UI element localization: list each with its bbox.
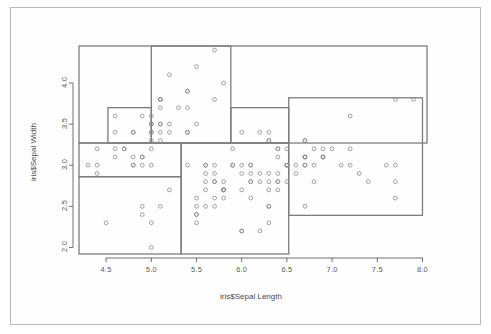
- x-tick-label: 6.0: [236, 265, 247, 274]
- data-point: [158, 204, 162, 208]
- data-point: [158, 106, 162, 110]
- data-point: [140, 213, 144, 217]
- data-point: [312, 180, 316, 184]
- y-tick-label: 3.5: [60, 117, 69, 131]
- data-point: [195, 65, 199, 69]
- data-point: [276, 147, 280, 151]
- data-point: [393, 196, 397, 200]
- data-point: [149, 246, 153, 250]
- region-upper-left-small: [108, 108, 151, 143]
- data-point: [140, 114, 144, 118]
- data-point: [158, 130, 162, 134]
- data-point: [195, 213, 199, 217]
- data-point: [131, 130, 135, 134]
- data-point: [186, 89, 190, 93]
- x-tick-label: 7.0: [327, 265, 338, 274]
- data-point: [357, 172, 361, 176]
- data-point: [339, 163, 343, 167]
- data-point: [140, 155, 144, 159]
- x-tick-label: 4.5: [101, 265, 112, 274]
- data-point: [113, 155, 117, 159]
- data-point: [213, 196, 217, 200]
- x-tick-label: 5.5: [191, 265, 202, 274]
- data-point: [321, 147, 325, 151]
- data-point: [384, 163, 388, 167]
- data-point: [95, 172, 99, 176]
- data-point: [249, 163, 253, 167]
- data-point: [213, 98, 217, 102]
- data-point: [222, 188, 226, 192]
- data-point: [240, 229, 244, 233]
- data-point: [113, 114, 117, 118]
- data-point: [222, 180, 226, 184]
- data-point: [258, 229, 262, 233]
- data-point: [348, 163, 352, 167]
- data-point: [213, 180, 217, 184]
- data-point: [267, 139, 271, 143]
- data-point: [303, 155, 307, 159]
- data-point: [267, 172, 271, 176]
- data-point: [177, 106, 181, 110]
- data-point: [303, 163, 307, 167]
- data-point: [312, 163, 316, 167]
- data-point: [213, 204, 217, 208]
- x-axis-title: iris$Sepal Length: [220, 292, 282, 301]
- screenshot-root: 4.55.05.56.06.57.07.58.0 2.02.53.03.54.0…: [0, 0, 491, 334]
- data-point: [167, 122, 171, 126]
- data-point: [113, 130, 117, 134]
- y-tick-label: 2.0: [60, 240, 69, 254]
- region-mid-left: [79, 143, 181, 177]
- data-point: [131, 163, 135, 167]
- data-point: [258, 172, 262, 176]
- x-tick-label: 7.5: [372, 265, 383, 274]
- data-point: [149, 221, 153, 225]
- x-tick-label: 6.5: [281, 265, 292, 274]
- data-point: [195, 204, 199, 208]
- data-point: [231, 163, 235, 167]
- plot-svg: [0, 0, 491, 334]
- data-point: [86, 163, 90, 167]
- data-point: [240, 188, 244, 192]
- data-point: [158, 122, 162, 126]
- data-point: [330, 147, 334, 151]
- data-point: [276, 155, 280, 159]
- data-point: [186, 163, 190, 167]
- region-right-large: [289, 98, 423, 216]
- data-point: [167, 130, 171, 134]
- data-point: [131, 155, 135, 159]
- data-point: [222, 81, 226, 85]
- data-point: [240, 172, 244, 176]
- data-point: [267, 221, 271, 225]
- plot-area: 4.55.05.56.06.57.07.58.0 2.02.53.03.54.0…: [0, 0, 491, 334]
- data-point: [95, 163, 99, 167]
- y-tick-label: 3.0: [60, 158, 69, 172]
- data-point: [393, 180, 397, 184]
- data-point: [204, 188, 208, 192]
- data-point: [276, 180, 280, 184]
- data-point: [366, 180, 370, 184]
- x-tick-label: 8.0: [417, 265, 428, 274]
- region-outer-top: [79, 46, 427, 143]
- data-point: [140, 204, 144, 208]
- data-point: [149, 163, 153, 167]
- data-point: [113, 147, 117, 151]
- data-point: [393, 163, 397, 167]
- region-rectangles-layer: [79, 46, 427, 254]
- data-point: [149, 147, 153, 151]
- data-point: [258, 130, 262, 134]
- data-point: [321, 155, 325, 159]
- data-point: [167, 188, 171, 192]
- data-point: [204, 204, 208, 208]
- data-point: [348, 114, 352, 118]
- x-tick-label: 5.0: [146, 265, 157, 274]
- data-point: [249, 196, 253, 200]
- data-point: [122, 147, 126, 151]
- data-point: [303, 139, 307, 143]
- data-point: [186, 130, 190, 134]
- data-point: [231, 147, 235, 151]
- data-point: [213, 163, 217, 167]
- data-point: [204, 163, 208, 167]
- region-right-strip-top: [231, 108, 289, 143]
- data-point: [213, 48, 217, 52]
- data-point: [267, 130, 271, 134]
